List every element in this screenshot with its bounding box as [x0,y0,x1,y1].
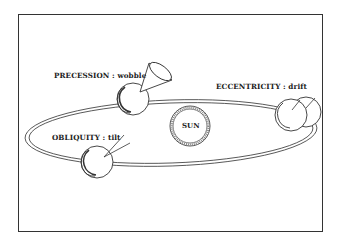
precession-label: PRECESSION : wobble [54,71,146,80]
obliquity-label: OBLIQUITY : tilt [52,133,120,142]
eccentricity-label: ECCENTRICITY : drift [216,82,307,91]
sun-label: SUN [182,121,200,130]
eccentricity-planet-icon [275,97,321,131]
milankovitch-diagram [0,0,341,243]
